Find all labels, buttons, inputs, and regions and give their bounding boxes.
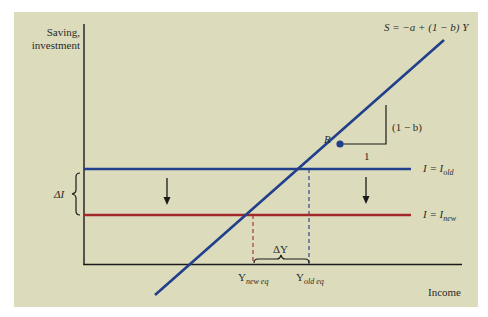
delta-y-brace [254, 255, 309, 263]
y-axis-label-line2: investment [24, 39, 80, 52]
y-axis-label: Saving, investment [28, 26, 80, 52]
point-r-marker [336, 140, 343, 147]
investment-old-text: I = I [423, 162, 443, 174]
investment-new-label: I = Inew [423, 208, 456, 221]
arrow-down-icon [363, 177, 370, 204]
investment-new-text: I = I [423, 208, 443, 220]
saving-line [155, 40, 444, 295]
delta-i-brace [72, 173, 80, 215]
delta-y-label: ΔY [273, 243, 288, 256]
y-new-eq-sub: new eq [246, 277, 268, 286]
delta-i-label: ΔI [54, 188, 64, 201]
y-new-eq-text: Y [238, 271, 246, 283]
investment-old-label: I = Iold [423, 162, 453, 175]
investment-old-sub: old [443, 168, 453, 177]
x-axis-label: Income [428, 286, 461, 299]
investment-new-sub: new [443, 214, 456, 223]
y-old-eq-label: Yold eq [296, 271, 324, 284]
y-old-eq-text: Y [296, 271, 304, 283]
slope-rise-label: (1 − b) [392, 121, 422, 134]
y-axis-label-line1: Saving, [28, 26, 80, 39]
arrow-down-icon [164, 178, 171, 205]
y-new-eq-label: Ynew eq [238, 271, 268, 284]
slope-run-label: 1 [364, 150, 370, 163]
y-old-eq-sub: old eq [304, 277, 324, 286]
point-r-label: R [324, 133, 331, 146]
saving-equation-label: S = −a + (1 − b) Y [384, 21, 468, 34]
